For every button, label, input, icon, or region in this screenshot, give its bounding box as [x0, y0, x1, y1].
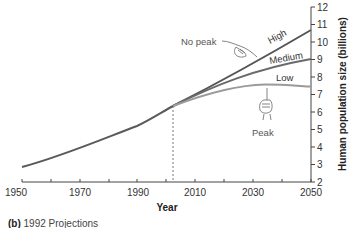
y-axis-ticks [311, 7, 315, 182]
figure-caption: (b) 1992 Projections [8, 218, 98, 228]
x-tick-2030: 2030 [242, 187, 265, 198]
y-tick-5: 5 [317, 124, 323, 135]
population-projection-chart: 1950 1970 1990 2010 2030 2050 Year 2 3 4… [0, 0, 352, 228]
y-tick-6: 6 [317, 107, 323, 118]
pointing-hand-icon [222, 41, 257, 57]
y-tick-3: 3 [317, 159, 323, 170]
caption-prefix: (b) [8, 218, 21, 228]
label-low: Low [276, 72, 294, 83]
y-tick-2: 2 [317, 177, 323, 188]
y-tick-11: 11 [317, 19, 328, 30]
y-tick-8: 8 [317, 72, 323, 83]
x-axis-title: Year [156, 202, 177, 213]
annotation-no-peak: No peak [181, 36, 217, 47]
x-tick-2050: 2050 [300, 187, 323, 198]
y-tick-7: 7 [317, 89, 323, 100]
series-historical-line [22, 106, 173, 167]
y-tick-labels: 2 3 4 5 6 7 8 9 10 11 12 [317, 2, 329, 188]
annotation-peak: Peak [252, 127, 274, 138]
x-tick-1990: 1990 [127, 187, 150, 198]
x-tick-labels: 1950 1970 1990 2010 2030 2050 [5, 187, 323, 198]
y-tick-12: 12 [317, 2, 329, 13]
caption-text: 1992 Projections [24, 218, 99, 228]
pointing-up-hand-icon [260, 88, 272, 120]
x-tick-1950: 1950 [5, 187, 28, 198]
x-tick-1970: 1970 [69, 187, 92, 198]
y-tick-9: 9 [317, 54, 323, 65]
y-axis-title: Human population size (billions) [337, 17, 348, 171]
y-tick-10: 10 [317, 37, 329, 48]
label-high: High [266, 27, 288, 46]
x-tick-2010: 2010 [184, 187, 207, 198]
y-tick-4: 4 [317, 142, 323, 153]
